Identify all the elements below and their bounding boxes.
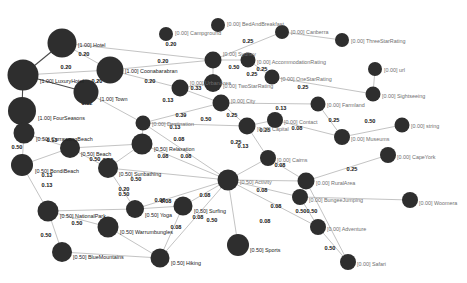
graph-node-label: [0.00] Farmland	[327, 102, 365, 108]
graph-node-label: [0.00] Cairns	[277, 157, 308, 163]
graph-node[interactable]	[174, 197, 193, 216]
edge-weight-label: 0.08	[200, 192, 211, 198]
graph-node-label: [0.00] AccommodationRating	[257, 59, 326, 65]
graph-node[interactable]	[213, 95, 230, 112]
graph-node[interactable]	[11, 154, 33, 176]
edge-weight-label: 0.50	[325, 245, 336, 251]
graph-node[interactable]	[227, 234, 249, 256]
edge-weight-label: 0.25	[257, 66, 268, 72]
graph-node-label: [0.00] Adventure	[327, 226, 366, 232]
graph-node-label: [0.50] Relaxation	[154, 146, 194, 152]
graph-node-label: [0.00] RuralArea	[316, 180, 355, 186]
edge-weight-label: 0.20	[119, 186, 130, 192]
graph-node[interactable]	[136, 116, 151, 131]
graph-node-label: [0.00] CapeYork	[397, 154, 436, 160]
graph-node-label: [1.00] Hotel	[78, 42, 106, 48]
graph-node-label: [0.00] string	[411, 123, 439, 129]
edge-weight-label: 0.08	[257, 187, 268, 193]
graph-node-label: [0.50] Sunbathing	[119, 171, 161, 177]
graph-node-label: [0.50] Warrumbungles	[120, 229, 173, 235]
edge-weight-label: 0.08	[174, 136, 185, 142]
graph-node[interactable]	[126, 200, 144, 218]
graph-node[interactable]	[334, 129, 350, 145]
graph-node-label: [0.00] City	[231, 98, 256, 104]
graph-node[interactable]	[52, 242, 72, 262]
graph-node-label: [0.50] Activity	[240, 179, 272, 185]
graph-node-label: [0.00] UrbanArea	[190, 80, 231, 86]
graph-node[interactable]	[239, 118, 256, 135]
edge-weight-label: 0.13	[238, 143, 249, 149]
graph-node[interactable]	[395, 118, 410, 133]
graph-node-label: [1.00] Coonabarabran	[125, 68, 177, 74]
graph-node[interactable]	[340, 254, 356, 270]
graph-node-label: [0.50] Yoga	[145, 212, 172, 218]
edge-weight-label: 0.13	[163, 97, 174, 103]
graph-node[interactable]	[366, 87, 381, 102]
graph-node-label: [1.00] LuxuryHotel	[40, 78, 84, 84]
graph-node-label: [0.00] Canberra	[291, 29, 328, 35]
graph-node[interactable]	[98, 217, 119, 238]
graph-node-label: [0.50] Beach	[81, 151, 111, 157]
edge-weight-label: 0.20	[145, 78, 156, 84]
graph-node-label: [0.00] ThreeStarRating	[351, 38, 405, 44]
edge-weight-label: 0.25	[227, 112, 238, 118]
graph-node-label: [0.50] Hiking	[171, 260, 201, 266]
graph-edge	[342, 125, 402, 137]
graph-node[interactable]	[311, 97, 326, 112]
graph-node-label: [1.00] FourSeasons	[38, 115, 85, 121]
graph-node-label: [0.00] BungeeJumping	[309, 197, 363, 203]
edge-weight-label: 0.08	[181, 153, 192, 159]
edge-weight-label: 0.08	[193, 214, 204, 220]
graph-node[interactable]	[335, 33, 349, 47]
graph-node[interactable]	[298, 173, 315, 190]
edge-weight-label: 0.50	[207, 217, 218, 223]
graph-node[interactable]	[260, 150, 276, 166]
graph-node-label: [0.00] Safari	[357, 261, 386, 267]
graph-node[interactable]	[8, 97, 36, 125]
edge-weight-label: 0.08	[158, 153, 169, 159]
graph-node[interactable]	[205, 52, 222, 69]
graph-node[interactable]	[159, 27, 173, 41]
graph-node[interactable]	[97, 57, 124, 84]
edge-weight-label: 0.25	[347, 166, 358, 172]
graph-node-label: [0.50] Sports	[250, 247, 281, 253]
edge-weight-label: 0.25	[243, 38, 254, 44]
graph-node[interactable]	[402, 192, 418, 208]
graph-node[interactable]	[38, 201, 59, 222]
graph-node-label: [0.00] Contact	[284, 119, 318, 125]
edge-weight-label: 0.39	[176, 112, 187, 118]
graph-node-label: [0.00] Destination	[152, 121, 194, 127]
graph-node[interactable]	[98, 158, 118, 178]
edge-weight-label: 0.50	[307, 208, 318, 214]
graph-edge	[70, 144, 142, 148]
graph-node[interactable]	[265, 70, 280, 85]
graph-node[interactable]	[310, 219, 326, 235]
edge-weight-label: 0.20	[61, 64, 72, 70]
graph-node-label: [0.50] CurrawongBeach	[36, 136, 93, 142]
graph-node[interactable]	[292, 189, 308, 205]
edge-weight-label: 0.50	[12, 144, 23, 150]
edge-weight-label: 0.50	[72, 220, 83, 226]
graph-node[interactable]	[14, 123, 35, 144]
edge-weight-label: 0.20	[158, 58, 169, 64]
edge-weight-label: 0.08	[271, 203, 282, 209]
graph-node[interactable]	[48, 29, 77, 58]
graph-node[interactable]	[218, 170, 239, 191]
edge-weight-label: 0.13	[276, 105, 287, 111]
edge-weight-label: 0.50	[41, 232, 52, 238]
graph-node-label: [0.00] OneStarRating	[281, 76, 332, 82]
graph-node-label: [0.00] Museums	[351, 136, 390, 142]
graph-node[interactable]	[8, 60, 39, 91]
graph-svg: 0.200.200.200.120.200.200.200.330.130.50…	[0, 0, 467, 283]
graph-node[interactable]	[132, 134, 153, 155]
graph-node[interactable]	[151, 249, 170, 268]
edge-weight-label: 0.20	[79, 51, 90, 57]
graph-edge	[48, 209, 135, 211]
edge-weight-label: 0.13	[42, 182, 53, 188]
network-graph-canvas: 0.200.200.200.120.200.200.200.330.130.50…	[0, 0, 467, 283]
graph-node-label: [0.00] Capital	[257, 126, 289, 132]
graph-node[interactable]	[172, 80, 189, 97]
edge-weight-label: 0.08	[155, 197, 166, 203]
graph-node[interactable]	[368, 62, 382, 76]
graph-node[interactable]	[380, 147, 396, 163]
